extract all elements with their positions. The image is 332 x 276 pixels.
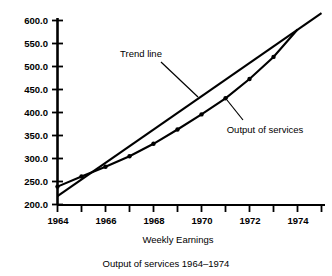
y-tick-label-250: 250.0	[24, 176, 48, 187]
figure-caption: Output of services 1964–1974	[103, 258, 230, 269]
y-tick-label-550: 550.0	[24, 38, 48, 49]
annotation-trend-line: Trend line	[120, 48, 162, 59]
data-point-1972	[247, 77, 251, 81]
data-point-1968	[151, 142, 155, 146]
y-tick-label-500: 500.0	[24, 61, 48, 72]
x-tick-label-1972: 1972	[239, 215, 260, 226]
chart-figure: 600.0 550.0 500.0 450.0 400.0 350.0 300.…	[0, 0, 332, 276]
x-tick-label-1964: 1964	[47, 215, 69, 226]
data-point-1973	[271, 55, 275, 59]
x-axis-title: Weekly Earnings	[142, 234, 213, 245]
data-point-1971	[223, 96, 227, 100]
data-point-1966	[103, 165, 107, 169]
x-tick-label-1968: 1968	[143, 215, 164, 226]
y-tick-label-200: 200.0	[24, 199, 48, 210]
y-tick-label-350: 350.0	[24, 130, 48, 141]
data-point-1964	[55, 184, 59, 188]
x-tick-label-1974: 1974	[287, 215, 309, 226]
line-chart-svg: 600.0 550.0 500.0 450.0 400.0 350.0 300.…	[0, 0, 332, 276]
x-tick-label-1966: 1966	[95, 215, 116, 226]
data-point-1969	[175, 127, 179, 131]
annotation-output-of-services: Output of services	[227, 124, 304, 135]
y-tick-label-400: 400.0	[24, 107, 48, 118]
data-point-1965	[79, 174, 83, 178]
data-point-1970	[199, 112, 203, 116]
y-tick-label-300: 300.0	[24, 153, 48, 164]
y-tick-label-450: 450.0	[24, 84, 48, 95]
data-point-1967	[127, 154, 131, 158]
x-tick-label-1970: 1970	[191, 215, 212, 226]
y-tick-label-600: 600.0	[24, 15, 48, 26]
